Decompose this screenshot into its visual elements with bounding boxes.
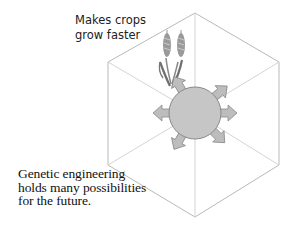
cell-sphere-icon xyxy=(169,87,221,139)
arrow-icon-left xyxy=(153,105,171,121)
diagram-canvas: Makes crops grow faster Genetic engineer… xyxy=(0,0,298,230)
diagram-caption: Genetic engineering holds many possibili… xyxy=(18,167,146,208)
crop-benefit-label: Makes crops grow faster xyxy=(75,13,146,43)
arrow-icon-right xyxy=(219,105,237,121)
wheat-icon xyxy=(159,30,185,86)
